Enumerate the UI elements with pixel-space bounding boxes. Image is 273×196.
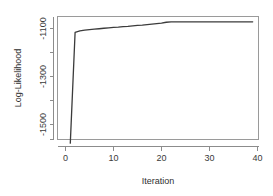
plot-area-background bbox=[57, 16, 259, 140]
chart-figure: -1100 -1300 -1500 0 10 20 30 40 Log-Like… bbox=[0, 0, 273, 196]
x-tick-label-20: 20 bbox=[156, 153, 166, 163]
x-tick-label-10: 10 bbox=[108, 153, 118, 163]
log-likelihood-convergence-chart: -1100 -1300 -1500 0 10 20 30 40 Log-Like… bbox=[0, 0, 273, 196]
y-tick-label-1500: -1500 bbox=[38, 113, 48, 136]
y-axis-title: Log-Likelihood bbox=[13, 49, 23, 108]
y-tick-label-1100: -1100 bbox=[38, 17, 48, 39]
x-tick-label-0: 0 bbox=[63, 153, 68, 163]
x-tick-label-40: 40 bbox=[252, 153, 262, 163]
x-axis-title: Iteration bbox=[142, 176, 175, 186]
x-tick-label-30: 30 bbox=[204, 153, 214, 163]
y-tick-label-1300: -1300 bbox=[38, 65, 48, 88]
